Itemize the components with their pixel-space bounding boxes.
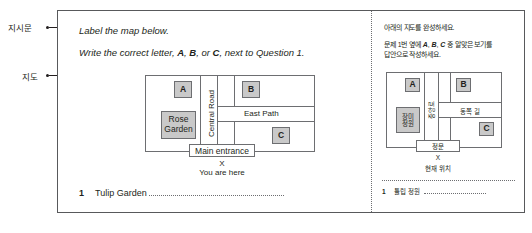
question-text: Tulip Garden bbox=[95, 188, 147, 198]
question-row-english: 1 Tulip Garden bbox=[79, 188, 284, 198]
map-diagram-korean: A B C 장미 정원 중앙로 동쪽 길 정문 X 현재 위치 bbox=[386, 72, 516, 177]
korean-upper-right-block-divider bbox=[450, 72, 451, 102]
central-road-left-edge bbox=[200, 75, 201, 152]
korean-label-east-path: 동쪽 길 bbox=[460, 106, 480, 116]
korean-central-road-right-edge bbox=[438, 72, 439, 148]
instruction-line-2: Write the correct letter, A, B, or C, ne… bbox=[79, 47, 305, 58]
korean-panel-separator bbox=[382, 180, 515, 181]
central-road-right-edge bbox=[217, 75, 218, 152]
marker-x: X bbox=[189, 159, 255, 168]
instruction-prefix: Write the correct letter, bbox=[79, 47, 177, 58]
annotation-label-instructions: 지시문 bbox=[8, 21, 33, 33]
question-number: 1 bbox=[79, 188, 95, 198]
label-you-are-here: You are here bbox=[179, 168, 265, 177]
east-path-top-edge bbox=[217, 106, 315, 107]
korean-answer-blank[interactable] bbox=[424, 186, 486, 194]
worksheet-screenshot: 지시문 지도 Label the map below. Write the co… bbox=[0, 0, 532, 233]
korean-map-lot-a: A bbox=[405, 78, 420, 92]
korean-label-main-entrance: 정문 bbox=[416, 140, 460, 152]
instruction-suffix: , next to Question 1. bbox=[219, 47, 304, 58]
korean-marker-x: X bbox=[416, 154, 460, 161]
english-panel: Label the map below. Write the correct l… bbox=[57, 10, 371, 213]
korean-label-you-are-here: 현재 위치 bbox=[408, 163, 468, 173]
korean-east-path-top-edge bbox=[438, 102, 502, 103]
label-main-entrance: Main entrance bbox=[189, 144, 255, 157]
korean-map-lot-c: C bbox=[479, 122, 494, 136]
korean-question-text: 튤립 정원 bbox=[394, 186, 420, 196]
korean-instruction-prefix: 문제 1번 옆에 bbox=[384, 41, 423, 48]
korean-east-path-bottom-edge bbox=[438, 117, 502, 118]
korean-label-central-road: 중앙로 bbox=[426, 88, 436, 132]
question-row-korean: 1 튤립 정원 bbox=[382, 186, 486, 196]
map-lot-rose-garden: Rose Garden bbox=[161, 111, 196, 139]
instruction-or: , or bbox=[196, 47, 212, 58]
korean-panel: 아래의 지도를 완성하세요. 문제 1번 옆에 A, B, C 중 알맞은 보기… bbox=[372, 10, 525, 213]
east-path-bottom-edge bbox=[217, 121, 315, 122]
map-lot-c: C bbox=[272, 127, 290, 144]
korean-map-lot-b: B bbox=[456, 78, 471, 92]
map-diagram-english: A B C Rose Garden Central Road East Path… bbox=[145, 75, 333, 180]
rose-garden-line-2: Garden bbox=[164, 125, 192, 135]
korean-map-lot-rose-garden: 장미 정원 bbox=[396, 107, 420, 133]
korean-rose-garden-line-1: 장미 bbox=[402, 113, 414, 120]
map-lot-a: A bbox=[174, 81, 192, 98]
korean-instruction-line-1: 아래의 지도를 완성하세요. bbox=[384, 22, 454, 32]
instruction-line-1: Label the map below. bbox=[79, 25, 169, 36]
korean-instruction-suffix: 중 알맞은 보기를 bbox=[445, 41, 492, 48]
korean-rose-garden-line-2: 정원 bbox=[402, 120, 414, 127]
label-central-road: Central Road bbox=[207, 83, 216, 145]
label-east-path: East Path bbox=[244, 109, 279, 118]
annotation-label-map: 지도 bbox=[22, 70, 38, 82]
map-lot-b: B bbox=[242, 81, 260, 98]
korean-question-number: 1 bbox=[382, 188, 394, 195]
upper-right-block-divider bbox=[234, 75, 235, 106]
answer-blank[interactable] bbox=[149, 188, 284, 196]
korean-instruction-line-3: 답안으로 작성하세요. bbox=[384, 49, 441, 59]
korean-instruction-line-2: 문제 1번 옆에 A, B, C 중 알맞은 보기를 bbox=[384, 39, 492, 49]
korean-central-road-left-edge bbox=[424, 72, 425, 148]
